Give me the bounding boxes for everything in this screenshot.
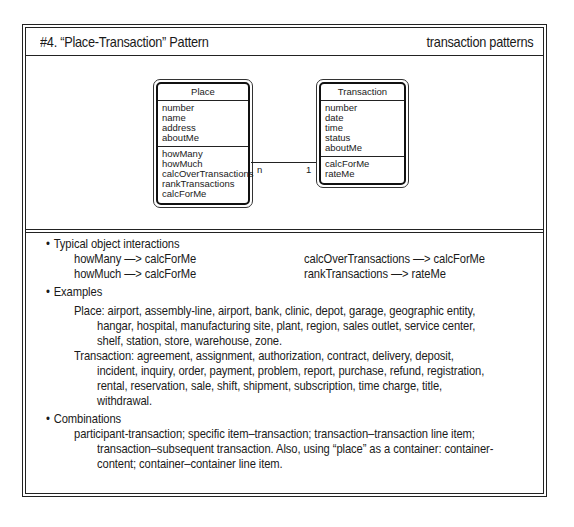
combination-line: content; container–container line item.	[97, 456, 283, 471]
class-name: Place	[158, 84, 248, 101]
class-attributes: number date time status aboutMe	[321, 101, 404, 157]
attribute: aboutMe	[325, 143, 400, 153]
example-transaction-line: rental, reservation, sale, shift, shipme…	[97, 378, 442, 393]
example-transaction-line: withdrawal.	[97, 393, 152, 408]
interaction-item: howMuch —> calcForMe	[74, 266, 196, 281]
combinations-heading: Combinations	[46, 411, 121, 426]
interactions-heading: Typical object interactions	[46, 236, 179, 251]
method: calcForMe	[162, 189, 244, 199]
example-transaction-line: incident, inquiry, order, payment, probl…	[97, 363, 484, 378]
card-header: #4. “Place-Transaction” Pattern transact…	[26, 28, 543, 56]
examples-heading: Examples	[46, 284, 102, 299]
method: rateMe	[325, 169, 400, 179]
pattern-category: transaction patterns	[426, 34, 533, 50]
example-place-line: hangar, hospital, manufacturing site, pl…	[97, 318, 475, 333]
association-line	[251, 162, 316, 163]
class-diagram: Place number name address aboutMe howMan…	[26, 56, 543, 230]
example-place-line: shelf, station, store, warehouse, zone.	[97, 333, 282, 348]
example-place-line: Place: airport, assembly-line, airport, …	[74, 303, 475, 318]
combination-line: participant-transaction; specific item–t…	[74, 426, 475, 441]
class-methods: howMany howMuch calcOverTransactions ran…	[158, 147, 248, 203]
pattern-title: #4. “Place-Transaction” Pattern	[40, 34, 209, 50]
class-attributes: number name address aboutMe	[158, 101, 248, 147]
interaction-item: howMany —> calcForMe	[74, 251, 196, 266]
multiplicity-place: n	[257, 164, 262, 175]
combination-line: transaction–subsequent transaction. Also…	[97, 441, 493, 456]
interaction-item: rankTransactions —> rateMe	[304, 266, 446, 281]
pattern-card: #4. “Place-Transaction” Pattern transact…	[25, 27, 544, 494]
class-place: Place number name address aboutMe howMan…	[153, 79, 253, 208]
attribute: aboutMe	[162, 133, 244, 143]
multiplicity-transaction: 1	[306, 164, 311, 175]
interaction-item: calcOverTransactions —> calcForMe	[304, 251, 485, 266]
pattern-notes: Typical object interactions howMany —> c…	[26, 233, 543, 491]
example-transaction-line: Transaction: agreement, assignment, auth…	[74, 348, 454, 363]
class-transaction: Transaction number date time status abou…	[316, 79, 409, 188]
class-name: Transaction	[321, 84, 404, 101]
class-methods: calcForMe rateMe	[321, 157, 404, 183]
